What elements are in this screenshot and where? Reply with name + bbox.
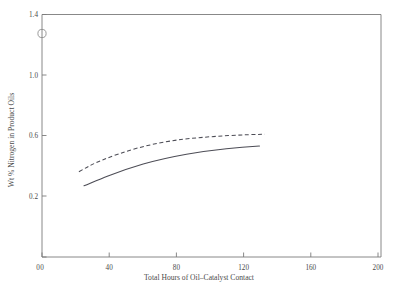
solid-series-line xyxy=(84,146,260,186)
x-tick-label-120: 120 xyxy=(238,264,249,272)
y-axis-ticks xyxy=(42,15,47,258)
x-tick-label-40: 40 xyxy=(106,264,114,272)
y-tick-label-1-0: 1.0 xyxy=(29,72,38,80)
nitrogen-vs-contact-hours-chart: 1.4 1.0 0.6 0.2 0 0 40 80 120 160 200 To… xyxy=(0,0,397,286)
y-tick-label-0-6: 0.6 xyxy=(29,132,38,140)
x-tick-label-200: 200 xyxy=(373,264,384,272)
x-axis-ticks xyxy=(42,253,378,258)
y-axis-tick-labels: 1.4 1.0 0.6 0.2 0 xyxy=(29,11,40,272)
x-axis-title: Total Hours of Oil–Catalyst Contact xyxy=(144,273,255,282)
x-tick-label-160: 160 xyxy=(305,264,316,272)
y-tick-label-0-2: 0.2 xyxy=(29,193,38,201)
chart-figure: 1.4 1.0 0.6 0.2 0 0 40 80 120 160 200 To… xyxy=(0,0,397,286)
plot-frame xyxy=(42,15,381,258)
x-tick-label-80: 80 xyxy=(173,264,181,272)
data-series-group xyxy=(79,134,265,186)
y-tick-label-1-4: 1.4 xyxy=(29,11,38,19)
y-axis-title: Wt % Nitrogen in Product Oils xyxy=(7,93,16,187)
x-axis-tick-labels: 0 40 80 120 160 200 xyxy=(40,264,384,272)
dashed-series-line xyxy=(79,134,265,172)
x-tick-label-0: 0 xyxy=(40,264,44,272)
